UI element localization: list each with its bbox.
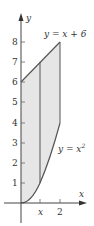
y-tick-7: 7: [12, 57, 18, 67]
y-tick-3: 3: [12, 138, 18, 148]
x-axis-label: x: [79, 189, 84, 199]
x-tick-label-2: 2: [57, 207, 63, 217]
y-tick-5: 5: [12, 97, 18, 107]
area-diagram: y x 1 2 3 4 5 6 7 8 x 2 y = x + 6 y = x2: [0, 0, 94, 226]
label-parabola: y = x2: [57, 142, 85, 154]
y-tick-8: 8: [12, 37, 18, 47]
y-tick-6: 6: [12, 77, 18, 87]
y-axis-arrow-icon: [19, 13, 24, 21]
y-tick-1: 1: [12, 178, 18, 188]
x-tick-label-x: x: [38, 207, 43, 217]
label-line: y = x + 6: [43, 29, 87, 39]
y-tick-4: 4: [12, 118, 18, 128]
y-tick-2: 2: [12, 158, 18, 168]
y-tick-labels: 1 2 3 4 5 6 7 8: [12, 37, 18, 188]
y-axis-label: y: [25, 13, 32, 23]
x-axis-arrow-icon: [79, 201, 87, 206]
